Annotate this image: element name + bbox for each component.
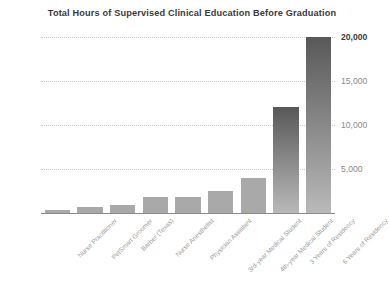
x-axis-tick-label: Nurse Anesthetist (174, 217, 215, 258)
bar (273, 107, 298, 213)
bar (110, 205, 135, 213)
bar (175, 197, 200, 213)
y-axis-tick-label: 20,000 (341, 32, 367, 42)
bar (208, 191, 233, 213)
x-axis-tick-label: Physician Assistant (208, 217, 252, 261)
bar (143, 197, 168, 213)
y-axis-tick-label: 15,000 (341, 76, 367, 86)
x-axis-tick-label: 3rd-year Medical Student (246, 217, 302, 273)
y-axis-tick-label: 10,000 (341, 120, 367, 130)
bar (306, 37, 331, 213)
bars-layer (41, 37, 335, 213)
x-axis-tick-labels: Nurse PractitionerPetSmart GroomerBarber… (0, 213, 384, 298)
bar (241, 178, 266, 213)
y-axis-tick-label: 5,000 (341, 164, 363, 174)
chart-title: Total Hours of Supervised Clinical Educa… (0, 8, 384, 18)
